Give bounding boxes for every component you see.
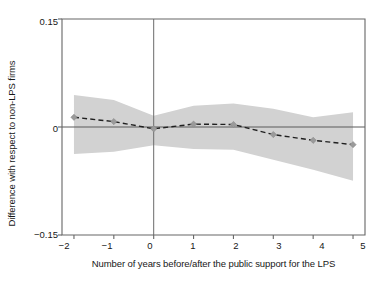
confidence-interval-band (74, 95, 353, 181)
reference-lines (62, 19, 365, 235)
y-axis-tick-marks (58, 19, 62, 235)
x-tick-label-four: 4 (309, 240, 335, 251)
x-tick-label-minus1: −1 (94, 240, 120, 251)
y-tick-label-bottom: −0.15 (22, 229, 58, 240)
x-tick-label-three: 3 (266, 240, 292, 251)
x-tick-label-zero: 0 (137, 240, 163, 251)
event-study-chart: Difference with respect to non-LPS firms… (0, 0, 383, 287)
x-tick-label-five: 5 (350, 240, 376, 251)
x-tick-label-minus2: −2 (51, 240, 77, 251)
y-tick-label-top: 0.15 (22, 16, 58, 27)
confidence-band-group (74, 95, 353, 181)
x-axis-tick-marks (74, 235, 353, 239)
x-tick-label-two: 2 (223, 240, 249, 251)
x-tick-label-one: 1 (180, 240, 206, 251)
y-tick-label-zero: 0 (22, 122, 58, 133)
x-axis-label: Number of years before/after the public … (62, 258, 365, 269)
